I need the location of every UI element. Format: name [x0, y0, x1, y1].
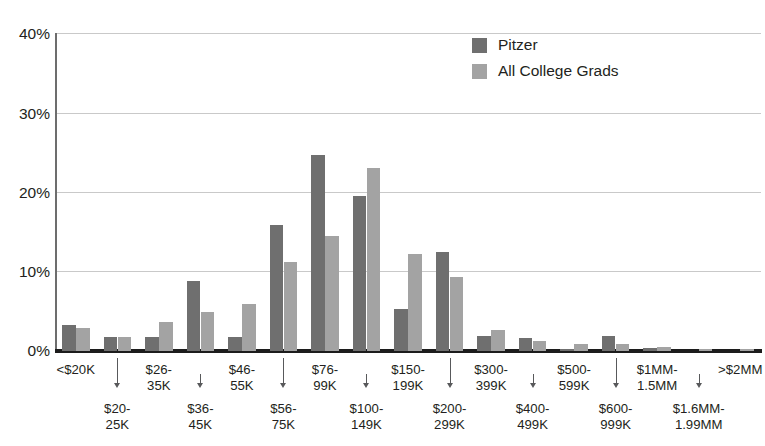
bar-group [180, 33, 222, 351]
y-axis-tick-40: 40% [2, 26, 50, 42]
bar[interactable] [574, 344, 588, 351]
bar[interactable] [62, 325, 76, 351]
x-axis-category-labels: <$20K$20- 25K$26- 35K$36- 45K$46- 55K$56… [55, 355, 765, 446]
y-axis-tick-labels: 40% 30% 20% 10% 0% [0, 0, 50, 446]
income-distribution-chart: 40% 30% 20% 10% 0% Pitzer All College Gr… [0, 0, 765, 446]
x-axis-label: $20- 25K [75, 401, 159, 432]
bar[interactable] [104, 337, 118, 351]
bar-group [429, 33, 471, 351]
bar-group [263, 33, 305, 351]
bar[interactable] [602, 336, 616, 351]
x-axis-label: $46- 55K [200, 362, 284, 393]
bar[interactable] [533, 341, 547, 351]
y-axis-tick-30: 30% [2, 106, 50, 122]
x-axis-label: >$2MM [698, 362, 765, 378]
x-axis-label: $300- 399K [449, 362, 533, 393]
y-axis-tick-10: 10% [2, 264, 50, 280]
bar[interactable] [187, 281, 201, 351]
bar[interactable] [491, 330, 505, 351]
x-axis-label: $36- 45K [158, 401, 242, 432]
bar-group [304, 33, 346, 351]
legend-swatch-pitzer [472, 38, 487, 53]
bar[interactable] [325, 236, 339, 351]
bar[interactable] [284, 262, 298, 351]
bar-group [138, 33, 180, 351]
bar-group [346, 33, 388, 351]
y-axis-tick-0: 0% [2, 343, 50, 359]
x-axis-label: $400- 499K [491, 401, 575, 432]
bar[interactable] [311, 155, 325, 351]
legend-label-pitzer: Pitzer [498, 36, 538, 54]
bar[interactable] [201, 312, 215, 351]
bar-group [387, 33, 429, 351]
legend-item-all-college-grads[interactable]: All College Grads [472, 58, 702, 84]
bar[interactable] [408, 254, 422, 351]
bar[interactable] [76, 328, 90, 351]
legend-swatch-all-college-grads [472, 64, 487, 79]
bar-group [55, 33, 97, 351]
bar[interactable] [270, 225, 284, 351]
legend: Pitzer All College Grads [472, 32, 702, 84]
bar[interactable] [145, 337, 159, 351]
bar[interactable] [118, 337, 132, 351]
bar[interactable] [643, 348, 657, 351]
x-axis-label: $1MM- 1.5MM [615, 362, 699, 393]
bar[interactable] [519, 338, 533, 352]
x-axis-label: $500- 599K [532, 362, 616, 393]
bar[interactable] [436, 252, 450, 351]
x-axis-label: $150- 199K [366, 362, 450, 393]
x-axis-label: $26- 35K [117, 362, 201, 393]
bar-group [221, 33, 263, 351]
x-axis-label: $600- 999K [574, 401, 658, 432]
bar[interactable] [477, 336, 491, 351]
x-axis-label: $200- 299K [408, 401, 492, 432]
bar[interactable] [228, 337, 242, 351]
x-axis-label: $76- 99K [283, 362, 367, 393]
bar[interactable] [242, 304, 256, 351]
y-axis-tick-20: 20% [2, 185, 50, 201]
bar[interactable] [740, 349, 754, 351]
bar[interactable] [353, 196, 367, 351]
bar[interactable] [616, 344, 630, 351]
bar[interactable] [367, 168, 381, 351]
bar-group [97, 33, 139, 351]
bar[interactable] [394, 309, 408, 351]
bar[interactable] [560, 349, 574, 351]
bar[interactable] [159, 322, 173, 351]
bar[interactable] [699, 349, 713, 351]
legend-label-all-college-grads: All College Grads [498, 62, 619, 80]
bar[interactable] [657, 347, 671, 351]
x-axis-label: $1.6MM- 1.99MM [657, 401, 741, 432]
bar[interactable] [450, 277, 464, 351]
x-axis-label: $100- 149K [324, 401, 408, 432]
bar-group [719, 33, 761, 351]
legend-item-pitzer[interactable]: Pitzer [472, 32, 702, 58]
x-axis-label: $56- 75K [241, 401, 325, 432]
x-axis-label: <$20K [34, 362, 118, 378]
